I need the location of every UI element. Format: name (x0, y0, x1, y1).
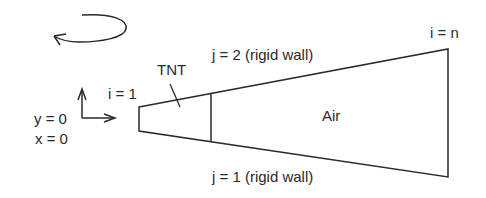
tnt-label: TNT (157, 61, 186, 78)
x-origin-label: x = 0 (35, 130, 68, 147)
i-end-label: i = n (430, 24, 459, 41)
bottom-wall-label: j = 1 (rigid wall) (211, 168, 313, 185)
tnt-leader-line (170, 84, 180, 107)
top-wall-label: j = 2 (rigid wall) (211, 46, 313, 63)
i-start-label: i = 1 (108, 85, 137, 102)
air-label: Air (322, 107, 340, 124)
y-origin-label: y = 0 (34, 110, 67, 127)
counterclockwise-curved-arrow-icon (54, 15, 126, 45)
domain-diagram: y = 0 x = 0 i = 1 TNT j = 2 (rigid wall)… (0, 0, 486, 198)
